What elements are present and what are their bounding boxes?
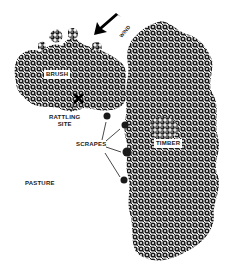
rattling-site-line1: RATTLING [49,114,80,121]
timber-label: TIMBER [154,139,182,148]
scrape-3 [123,148,132,157]
rattling-site-label: RATTLING SITE [49,114,80,128]
scrapes-label: SCRAPES [76,141,106,148]
map-illustration [0,0,238,272]
brush-region [15,28,127,111]
diagram-canvas: WIND BRUSH RATTLING SITE SCRAPES TIMBER … [0,0,238,272]
scrape-1 [104,113,111,120]
scrape-2 [122,122,129,129]
pasture-label: PASTURE [25,180,55,187]
wind-arrow-icon [94,13,121,35]
rattling-site-line2: SITE [49,121,80,128]
brush-label: BRUSH [44,70,70,79]
scrape-4 [121,177,128,184]
